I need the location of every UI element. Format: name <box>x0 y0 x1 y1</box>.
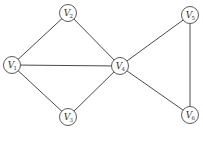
node-v6: V6 <box>182 107 199 124</box>
node-subscript: 1 <box>14 65 18 71</box>
edge-layer <box>12 13 190 117</box>
node-v2: V2 <box>60 5 77 22</box>
node-v5: V5 <box>182 7 199 24</box>
node-subscript: 6 <box>192 115 196 121</box>
edge-v2-v4 <box>68 13 120 66</box>
node-v3: V3 <box>60 109 77 126</box>
node-subscript: 3 <box>70 117 74 123</box>
node-subscript: 5 <box>192 15 196 21</box>
node-subscript: 4 <box>122 66 126 72</box>
edge-v4-v6 <box>120 66 190 115</box>
edge-v1-v4 <box>12 65 120 66</box>
edge-v1-v2 <box>12 13 68 65</box>
edge-v3-v4 <box>68 66 120 117</box>
graph-diagram: V1V2V3V4V5V6 <box>0 0 203 141</box>
edge-v4-v5 <box>120 15 190 66</box>
node-v1: V1 <box>4 57 21 74</box>
edge-v1-v3 <box>12 65 68 117</box>
node-v4: V4 <box>112 58 129 75</box>
node-subscript: 2 <box>70 13 74 19</box>
